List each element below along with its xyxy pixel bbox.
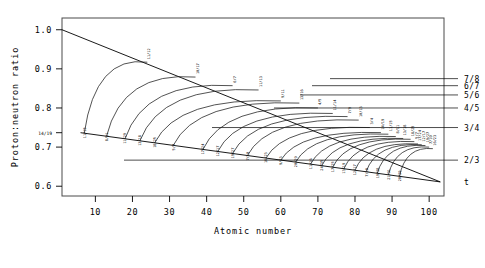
arc-bottom-label-11-13: 13/18 xyxy=(138,135,142,146)
right-axis-label-5-6: 5/6 xyxy=(464,91,480,100)
arc-top-label-13-16: 13/16 xyxy=(300,89,304,100)
right-axis-label-3-4: 3/4 xyxy=(464,124,480,133)
x-tick-label-80: 80 xyxy=(349,207,360,217)
arc-bottom-label-17-24: 12/17 xyxy=(353,164,357,175)
arc-top-label-10-17: 10/17 xyxy=(196,63,200,74)
x-tick-label-50: 50 xyxy=(238,207,249,217)
ratio-arc-11-13 xyxy=(140,90,259,141)
ratio-arc-14-19 xyxy=(281,132,381,160)
arc-top-label-8-11: 8/11 xyxy=(396,125,400,134)
arc-top-label-11-12: 11/12 xyxy=(148,48,152,59)
arc-top-label-11-13: 11/13 xyxy=(259,76,263,87)
arc-top-label-13-18: 13/18 xyxy=(403,125,407,136)
arc-bottom-label-14-19: 9/13 xyxy=(279,156,283,165)
arc-top-label-11-14: 11/14 xyxy=(333,100,337,111)
arc-top-label-14-19: 14/19 xyxy=(381,119,385,130)
arc-top-label-7-9: 7/9 xyxy=(348,107,352,114)
x-tick-label-60: 60 xyxy=(275,207,286,217)
arc-bottom-label-5-7: 13/19 xyxy=(342,163,346,174)
x-tick-label-20: 20 xyxy=(127,207,138,217)
ratio-arc-7-10 xyxy=(388,147,429,175)
arc-bottom-label-11-12: 11/15 xyxy=(83,127,87,138)
arc-bottom-label-8-11: 11/16 xyxy=(309,158,313,169)
arc-bottom-label-12-17: 7/10 xyxy=(365,168,369,177)
proton-neutron-ratio-chart: 7/86/75/64/53/42/3t1.00.90.80.70.614/19P… xyxy=(0,0,485,268)
arc-top-label-9-11: 9/11 xyxy=(281,89,285,98)
y-axis-title: Proton:neutron ratio xyxy=(10,47,20,167)
arc-top-label-3-4: 3/4 xyxy=(370,118,374,125)
arc-bottom-label-16-23: 20/29 xyxy=(398,171,402,182)
x-axis-title: Atomic number xyxy=(214,226,292,236)
right-axis-label-6-7: 6/7 xyxy=(464,82,480,91)
arc-bottom-label-13-16: 5/7 xyxy=(172,144,176,151)
arc-bottom-label-7-9: 19/27 xyxy=(231,148,235,159)
chart-container: 7/86/75/64/53/42/3t1.00.90.80.70.614/19P… xyxy=(0,0,485,268)
right-axis-label-4-5: 4/5 xyxy=(464,104,480,113)
x-tick-label-70: 70 xyxy=(312,207,323,217)
arc-bottom-label-10-17: 8/11 xyxy=(105,133,109,142)
arc-bottom-label-11-14: 12/17 xyxy=(216,146,220,157)
y-axis-annotation-label: 14/19 xyxy=(38,131,52,136)
ratio-arc-12-17 xyxy=(366,145,422,172)
ratio-arc-10-13 xyxy=(247,120,358,156)
right-axis-label-2-3: 2/3 xyxy=(464,156,480,165)
right-axis-label-t: t xyxy=(464,178,469,187)
arc-bottom-label-18-25: 17/25 xyxy=(331,161,335,172)
ratio-arc-13-16 xyxy=(173,103,299,146)
arc-bottom-label-19-27: 19/28 xyxy=(376,167,380,178)
ratio-arc-11-12 xyxy=(84,62,147,134)
x-tick-label-40: 40 xyxy=(201,207,212,217)
y-tick-label-0.9: 0.9 xyxy=(35,64,52,74)
arc-top-label-16-23: 16/23 xyxy=(433,135,437,146)
arc-bottom-label-9-11: 18/25 xyxy=(153,137,157,148)
arc-top-label-4-5: 4/5 xyxy=(318,98,322,105)
arc-top-label-6-7: 6/7 xyxy=(233,76,237,83)
y-tick-label-0.6: 0.6 xyxy=(35,181,52,191)
arc-top-label-11-15: 11/15 xyxy=(389,120,393,131)
arc-bottom-label-3-4: 16/23 xyxy=(264,152,268,163)
y-tick-label-0.8: 0.8 xyxy=(35,103,52,113)
ratio-arc-10-17 xyxy=(107,77,196,137)
ratio-arc-9-11 xyxy=(155,101,281,143)
y-tick-label-1.0: 1.0 xyxy=(35,25,52,35)
arc-bottom-label-13-18: 24/35 xyxy=(320,160,324,171)
x-tick-label-10: 10 xyxy=(90,207,101,217)
x-tick-label-100: 100 xyxy=(421,207,438,217)
arc-bottom-label-7-10: 21/31 xyxy=(387,169,391,180)
arc-top-label-10-13: 10/13 xyxy=(359,106,363,117)
arc-bottom-label-11-15: 20/29 xyxy=(294,156,298,167)
x-tick-label-90: 90 xyxy=(386,207,397,217)
upper-boundary-line xyxy=(62,30,440,182)
x-tick-label-30: 30 xyxy=(164,207,175,217)
y-tick-label-0.7: 0.7 xyxy=(35,142,52,152)
arc-bottom-label-6-7: 11/29 xyxy=(123,133,127,144)
arc-bottom-label-10-13: 7/10 xyxy=(246,152,250,161)
arc-bottom-label-4-5: 17/24 xyxy=(201,144,205,155)
